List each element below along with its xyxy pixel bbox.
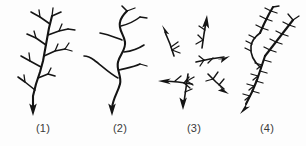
panel-3-label: (3) (156, 122, 232, 134)
panel-1-label: (1) (0, 122, 86, 134)
sinuous-sparse-branching-diagram (80, 4, 160, 116)
fragment-down-right (206, 72, 229, 94)
panel-4-drawing (228, 4, 306, 116)
figure-panel-2: (2) (80, 0, 160, 146)
panel-1-drawing (0, 4, 86, 116)
figure-panel-3: (3) (156, 0, 232, 146)
feather-like-pinnate-branching-diagram (228, 4, 306, 116)
figure-panel-1: (1) (0, 0, 86, 146)
dense-monopodial-branching-diagram (0, 4, 86, 116)
fragment-up (196, 15, 209, 48)
panel-2-label: (2) (80, 122, 160, 134)
panel-4-label: (4) (228, 122, 306, 134)
branching-pattern-figure: (1) (0, 0, 306, 146)
scattered-radiating-fragments-diagram (156, 4, 232, 116)
figure-panel-4: (4) (228, 0, 306, 146)
flow-arrowhead (240, 103, 250, 114)
fragment-up-left (162, 25, 180, 56)
fragment-down (179, 74, 194, 110)
panel-3-drawing (156, 4, 232, 116)
panel-2-drawing (80, 4, 160, 116)
fragment-right (196, 56, 230, 66)
